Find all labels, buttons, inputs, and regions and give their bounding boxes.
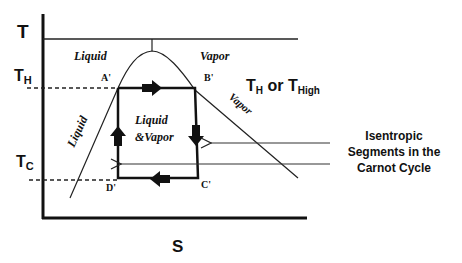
tc-label: TC <box>16 153 34 172</box>
mixture-label-line1: Liquid <box>134 113 169 127</box>
y-axis-label: T <box>17 21 29 42</box>
mixture-label-line2: &Vapor <box>135 130 174 144</box>
arrow-right-icon <box>142 80 162 96</box>
vapor-region-label: Vapor <box>200 49 230 63</box>
arrow-down-icon <box>188 125 204 146</box>
isentropic-label-line3: Carnot Cycle <box>357 161 431 175</box>
arrow-left-icon <box>150 171 170 187</box>
carnot-ts-diagram: T S TH TC Liquid Vapor Liquid Vapor Liqu… <box>0 0 462 263</box>
point-c-label: C' <box>201 179 211 190</box>
isentropic-label-line2: Segments in the <box>348 145 441 159</box>
point-a-label: A' <box>101 72 111 83</box>
point-d-label: D' <box>106 182 116 193</box>
th-label: TH <box>14 67 32 86</box>
saturated-vapor-line-label: Vapor <box>227 90 256 117</box>
arrow-up-icon <box>110 126 126 146</box>
point-b-label: B' <box>204 72 214 83</box>
x-axis-label: S <box>172 237 183 256</box>
liquid-region-label: Liquid <box>73 49 108 63</box>
saturated-liquid-line-label: Liquid <box>64 113 91 150</box>
th-or-thigh-label: TH or THigh <box>246 77 320 96</box>
isentropic-label-line1: Isentropic <box>365 129 423 143</box>
